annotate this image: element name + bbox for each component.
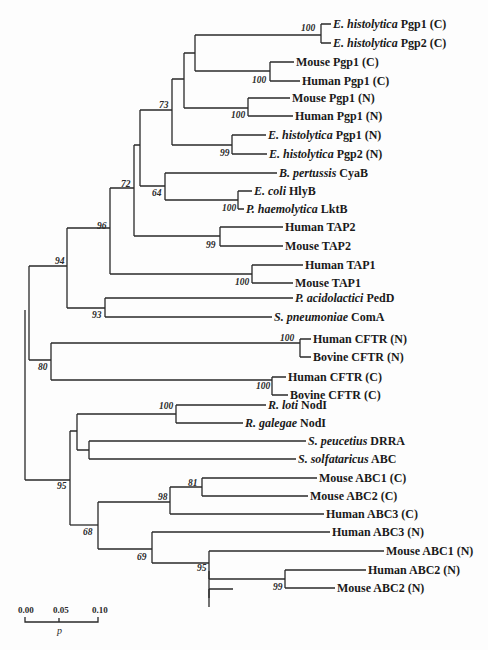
- leaf-labels: E. histolytica Pgp1 (C) E. histolytica P…: [244, 17, 473, 595]
- scale-tick-label: 0.05: [53, 605, 69, 615]
- leaf-label: E. histolytica Pgp1 (N): [267, 128, 381, 142]
- leaf-label: B. pertussis CyaB: [278, 166, 368, 180]
- leaf-label: S. peucetius DRRA: [308, 434, 405, 448]
- bootstrap-value: 81: [188, 478, 198, 488]
- bootstrap-value: 99: [220, 148, 230, 158]
- scale-tick-label: 0.00: [18, 605, 34, 615]
- bootstrap-value: 100: [159, 401, 174, 411]
- bootstrap-value: 100: [222, 203, 237, 213]
- leaf-label: E. coli HlyB: [253, 184, 316, 198]
- leaf-label: Human ABC3 (N): [332, 525, 424, 539]
- bootstrap-value: 100: [231, 110, 246, 120]
- leaf-label: S. solfataricus ABC: [298, 452, 396, 466]
- bootstrap-value: 68: [83, 527, 93, 537]
- leaf-label: R. loti NodI: [267, 398, 327, 412]
- leaf-label: Human ABC2 (N): [368, 563, 460, 577]
- bootstrap-value: 69: [137, 552, 147, 562]
- phylogenetic-tree: E. histolytica Pgp1 (C) E. histolytica P…: [0, 0, 488, 650]
- leaf-label: Human ABC3 (C): [326, 507, 418, 521]
- leaf-label: Human CFTR (C): [288, 370, 382, 384]
- bootstrap-value: 100: [252, 75, 267, 85]
- leaf-label: P. acidolactici PedD: [295, 291, 395, 305]
- bootstrap-value: 100: [235, 277, 250, 287]
- scale-tick-label: 0.10: [92, 605, 108, 615]
- bootstrap-value: 99: [206, 240, 216, 250]
- bootstrap-value: 72: [121, 179, 131, 189]
- leaf-label: Mouse ABC2 (C): [310, 489, 397, 503]
- leaf-label: Human TAP1: [305, 258, 376, 272]
- leaf-label: E. histolytica Pgp1 (C): [332, 17, 446, 31]
- bootstrap-value: 96: [97, 221, 107, 231]
- bootstrap-value: 100: [256, 381, 271, 391]
- leaf-label: P. haemolytica LktB: [246, 202, 347, 216]
- leaf-label: Human TAP2: [285, 220, 356, 234]
- leaf-label: Mouse Pgp1 (C): [296, 55, 379, 69]
- scale-axis-label: p: [56, 625, 62, 636]
- leaf-label: Mouse ABC1 (N): [386, 544, 473, 558]
- leaf-label: Human Pgp1 (C): [302, 74, 389, 88]
- bootstrap-value: 99: [273, 582, 283, 592]
- leaf-label: Mouse Pgp1 (N): [292, 91, 375, 105]
- bootstrap-value: 100: [280, 333, 295, 343]
- leaf-label: R. galegae NodI: [244, 416, 326, 430]
- bootstrap-value: 93: [92, 310, 102, 320]
- bootstrap-value: 94: [55, 256, 65, 266]
- leaf-label: E. histolytica Pgp2 (C): [332, 36, 446, 50]
- leaf-label: Mouse ABC1 (C): [319, 471, 406, 485]
- bootstrap-value: 98: [158, 492, 168, 502]
- scale-bar: 0.00 0.05 0.10 p: [18, 605, 108, 636]
- bootstrap-value: 73: [159, 100, 169, 110]
- bootstrap-value: 95: [57, 481, 67, 491]
- leaf-label: Bovine CFTR (N): [313, 350, 404, 364]
- leaf-label: Human Pgp1 (N): [295, 109, 382, 123]
- leaf-label: Mouse TAP2: [285, 239, 351, 253]
- bootstrap-value: 100: [301, 23, 316, 33]
- leaf-label: S. pneumoniae ComA: [274, 310, 385, 324]
- bootstrap-value: 64: [152, 188, 162, 198]
- leaf-label: Mouse ABC2 (N): [337, 581, 424, 595]
- leaf-label: Human CFTR (N): [313, 332, 407, 346]
- leaf-label: E. histolytica Pgp2 (N): [268, 147, 382, 161]
- leaf-label: Mouse TAP1: [295, 276, 361, 290]
- bootstrap-value: 80: [38, 362, 48, 372]
- bootstrap-value: 95: [197, 563, 207, 573]
